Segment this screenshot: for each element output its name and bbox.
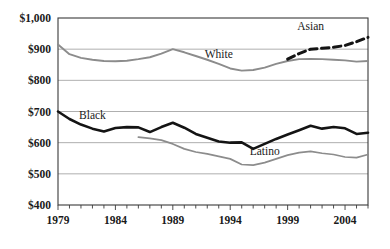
y-tick-label-500: $500	[28, 168, 51, 180]
white-label: White	[205, 48, 233, 60]
black-label: Black	[79, 109, 106, 121]
income-by-race-line-chart: $1,000$900$800$700$600$500$400 197919841…	[0, 0, 390, 249]
x-tick-label-1989: 1989	[161, 214, 184, 226]
x-axis-tickmarks	[58, 205, 368, 210]
chart-container: $1,000$900$800$700$600$500$400 197919841…	[0, 0, 390, 249]
y-tick-label-1000: $1,000	[19, 12, 51, 24]
x-tick-label-1984: 1984	[104, 214, 127, 226]
y-tick-label-700: $700	[28, 106, 51, 118]
series-line-asian	[288, 37, 368, 59]
asian-label: Asian	[297, 20, 324, 32]
y-tick-label-800: $800	[28, 74, 51, 86]
x-tick-label-2004: 2004	[334, 214, 357, 226]
x-tick-label-1979: 1979	[47, 214, 70, 226]
y-tick-label-600: $600	[28, 137, 51, 149]
latino-label: Latino	[250, 145, 280, 157]
x-tick-label-1994: 1994	[219, 214, 242, 226]
x-axis-tick-labels: 197919841989199419992004	[47, 214, 357, 226]
y-tick-label-400: $400	[28, 199, 51, 211]
y-axis-tick-labels: $1,000$900$800$700$600$500$400	[19, 12, 51, 211]
x-tick-label-1999: 1999	[276, 214, 299, 226]
y-tick-label-900: $900	[28, 43, 51, 55]
